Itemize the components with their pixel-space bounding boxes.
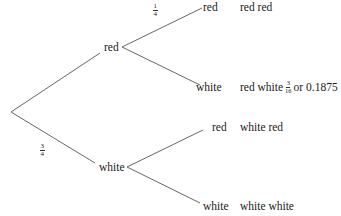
outcome-probability-fraction: 316 [285, 80, 292, 94]
probability-red-red: 1 4 [153, 3, 158, 18]
outcome-white-white: white white [240, 200, 294, 212]
outcome-red-red: red red [240, 1, 272, 13]
branch-white-red [127, 130, 203, 167]
node-red-red: red [203, 1, 218, 13]
branch-root-white [11, 112, 95, 163]
node-white: white [99, 161, 125, 173]
outcome-probability-decimal: or 0.1875 [294, 81, 338, 93]
branch-red-white [122, 47, 200, 85]
outcome-red-white: red white316or 0.1875 [240, 81, 338, 95]
node-red: red [104, 41, 119, 53]
branch-root-red [11, 53, 100, 112]
node-white-white: white [203, 200, 229, 212]
node-white-red: red [212, 121, 227, 133]
fraction-denominator: 4 [41, 151, 45, 158]
fraction-denominator: 4 [154, 11, 158, 18]
outcome-white-red: white red [240, 121, 283, 133]
fraction-denominator: 16 [285, 88, 292, 95]
tree-branches [0, 0, 341, 216]
probability-root-white: 3 4 [40, 143, 45, 158]
node-red-white: white [196, 81, 222, 93]
branch-white-white [127, 167, 200, 203]
branch-red-red [122, 8, 202, 47]
outcome-label: red white [240, 81, 283, 93]
